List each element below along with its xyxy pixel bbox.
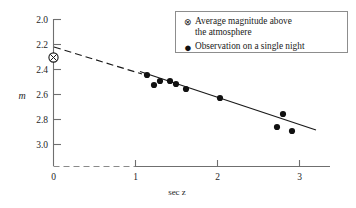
data-point [157, 78, 163, 84]
ytick-label-2-4: 2.4 [36, 65, 48, 75]
average-magnitude-circled-x-icon [49, 53, 58, 62]
legend-entry-average-magnitude: ⊗ Average magnitude above the atmosphere [176, 12, 347, 38]
data-point [289, 128, 295, 134]
ytick-label-2-6: 2.6 [36, 90, 48, 100]
observation-points [144, 72, 295, 134]
dot-icon: ● [181, 41, 195, 53]
xtick-label-0: 0 [51, 172, 56, 182]
ytick-label-3-0: 3.0 [36, 140, 48, 150]
data-point [217, 95, 223, 101]
ytick-label-2-8: 2.8 [36, 115, 48, 125]
data-point [274, 124, 280, 130]
ytick-label-2-2: 2.2 [36, 40, 48, 50]
x-axis-ticks [136, 160, 300, 167]
ytick-label-2-0: 2.0 [36, 15, 48, 25]
data-point [167, 78, 173, 84]
extinction-fit-line [140, 72, 316, 131]
chart-legend: ⊗ Average magnitude above the atmosphere… [175, 11, 348, 53]
extrapolation-dashed-line [54, 47, 142, 74]
xtick-label-2: 2 [215, 172, 220, 182]
x-axis-title: sec z [168, 187, 186, 197]
data-point [144, 72, 150, 78]
y-axis-title: m [18, 90, 25, 101]
data-point [183, 86, 189, 92]
legend-label: Average magnitude above the atmosphere [195, 16, 292, 38]
y-axis-group: 2.0 2.2 2.4 2.6 2.8 3.0 m [18, 15, 61, 166]
x-axis-group: 0 1 2 3 sec z [51, 160, 330, 197]
extinction-chart: 2.0 2.2 2.4 2.6 2.8 3.0 m 0 1 2 3 sec z [0, 0, 356, 208]
data-point [280, 111, 286, 117]
xtick-label-1: 1 [133, 172, 138, 182]
circled-x-icon: ⊗ [181, 16, 195, 28]
y-axis-ticks [54, 20, 62, 145]
data-point [151, 82, 157, 88]
legend-entry-observation: ● Observation on a single night [176, 38, 347, 53]
legend-label: Observation on a single night [195, 41, 304, 52]
data-point [173, 81, 179, 87]
xtick-label-3: 3 [297, 172, 302, 182]
